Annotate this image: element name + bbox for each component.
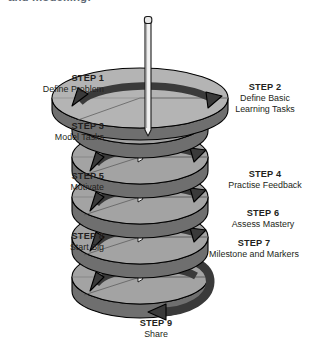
spiral-learning-diagram: and modelling: <box>0 0 310 349</box>
step-4-heading: STEP 4 <box>222 169 308 180</box>
step-label-3: STEP 3 Model Tasks <box>8 121 104 143</box>
step-8-heading: STEP 8 <box>8 231 104 242</box>
step-6-heading: STEP 6 <box>218 208 308 219</box>
step-8-description: Start Big <box>8 242 104 253</box>
step-label-1: STEP 1 Define Problem <box>8 73 104 95</box>
step-label-5: STEP 5 Motivate <box>8 171 104 193</box>
step-2-description: Define Basic Learning Tasks <box>224 93 306 115</box>
step-4-description: Practise Feedback <box>222 180 308 191</box>
step-7-heading: STEP 7 <box>200 238 308 249</box>
step-5-heading: STEP 5 <box>8 171 104 182</box>
step-label-8: STEP 8 Start Big <box>8 231 104 253</box>
step-3-description: Model Tasks <box>8 132 104 143</box>
step-label-9: STEP 9 Share <box>108 318 204 340</box>
step-label-2: STEP 2 Define Basic Learning Tasks <box>224 82 306 115</box>
step-1-description: Define Problem <box>8 84 104 95</box>
step-7-description: Milestone and Markers <box>200 249 308 260</box>
central-spindle <box>144 17 151 137</box>
step-9-heading: STEP 9 <box>108 318 204 329</box>
step-3-heading: STEP 3 <box>8 121 104 132</box>
step-label-6: STEP 6 Assess Mastery <box>218 208 308 230</box>
step-1-heading: STEP 1 <box>8 73 104 84</box>
step-label-7: STEP 7 Milestone and Markers <box>200 238 308 260</box>
step-5-description: Motivate <box>8 182 104 193</box>
step-9-description: Share <box>108 329 204 340</box>
step-label-4: STEP 4 Practise Feedback <box>222 169 308 191</box>
step-2-heading: STEP 2 <box>224 82 306 93</box>
step-6-description: Assess Mastery <box>218 219 308 230</box>
